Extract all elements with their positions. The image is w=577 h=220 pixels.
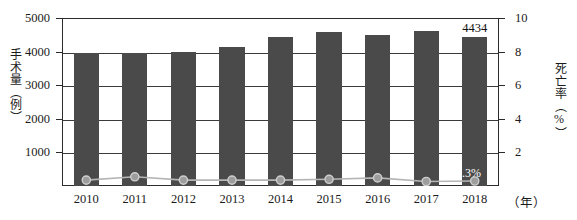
y2-axis-tickmark	[499, 152, 505, 153]
bar-2018[interactable]: 4434	[462, 37, 487, 186]
x-axis-tick-label: 2018	[451, 192, 500, 212]
y2-axis-tickmark	[499, 18, 505, 19]
x-axis-tick-label: 2014	[256, 192, 305, 212]
bar-slot	[208, 18, 257, 186]
y2-axis-tickmark	[499, 119, 505, 120]
y2-axis-tick-label: 6	[515, 79, 521, 91]
y2-axis-tick-label: 10	[515, 12, 528, 24]
bar-slot	[62, 18, 111, 186]
x-axis-labels: 2010 2011 2012 2013 2014 2015 2016 2017 …	[62, 192, 499, 212]
bar-slot	[402, 18, 451, 186]
x-axis-tick-label: 2013	[208, 192, 257, 212]
bar-2012[interactable]	[171, 52, 196, 186]
y2-axis-tickmark	[499, 52, 505, 53]
y-axis-tick-label: 2000	[25, 113, 50, 125]
y2-axis-tick-label: 4	[515, 113, 521, 125]
bar-series: 4434	[62, 18, 499, 186]
bar-2011[interactable]	[122, 53, 147, 186]
chart-container: 5000 4000 3000 2000 1000 手术量（例）	[0, 0, 577, 220]
y2-axis-tickmark	[499, 85, 505, 86]
bar-slot	[256, 18, 305, 186]
bar-value-label-2018: 4434	[462, 21, 487, 36]
bar-slot	[305, 18, 354, 186]
y2-axis-tick-label: 8	[515, 46, 521, 58]
y-axis-tick-label: 1000	[25, 146, 50, 158]
y2-axis-tick-label: 2	[515, 146, 521, 158]
x-axis-tick-label: 2010	[62, 192, 111, 212]
bar-slot	[353, 18, 402, 186]
y2-axis-title: 死亡率（%）	[551, 62, 568, 139]
bar-2010[interactable]	[74, 53, 99, 186]
y-axis-right: 10 8 6 4 2	[505, 0, 545, 220]
bar-2015[interactable]	[316, 32, 341, 186]
x-axis-tick-label: 2011	[111, 192, 160, 212]
x-axis-tick-label: 2017	[402, 192, 451, 212]
bar-slot: 4434	[451, 18, 500, 186]
y-axis-tick-label: 3000	[25, 79, 50, 91]
x-axis-tick-label: 2015	[305, 192, 354, 212]
x-axis-unit-label: （年）	[507, 192, 546, 211]
bar-slot	[159, 18, 208, 186]
bar-2014[interactable]	[268, 37, 293, 187]
x-axis-tick-label: 2016	[353, 192, 402, 212]
bar-2013[interactable]	[219, 47, 244, 186]
y-axis-tick-label: 4000	[25, 46, 50, 58]
bar-2017[interactable]	[414, 31, 439, 186]
y-axis-title: 手术量（例）	[6, 48, 23, 123]
y-axis-tick-label: 5000	[25, 12, 50, 24]
x-axis-tick-label: 2012	[159, 192, 208, 212]
bar-2016[interactable]	[365, 35, 390, 187]
bar-slot	[111, 18, 160, 186]
